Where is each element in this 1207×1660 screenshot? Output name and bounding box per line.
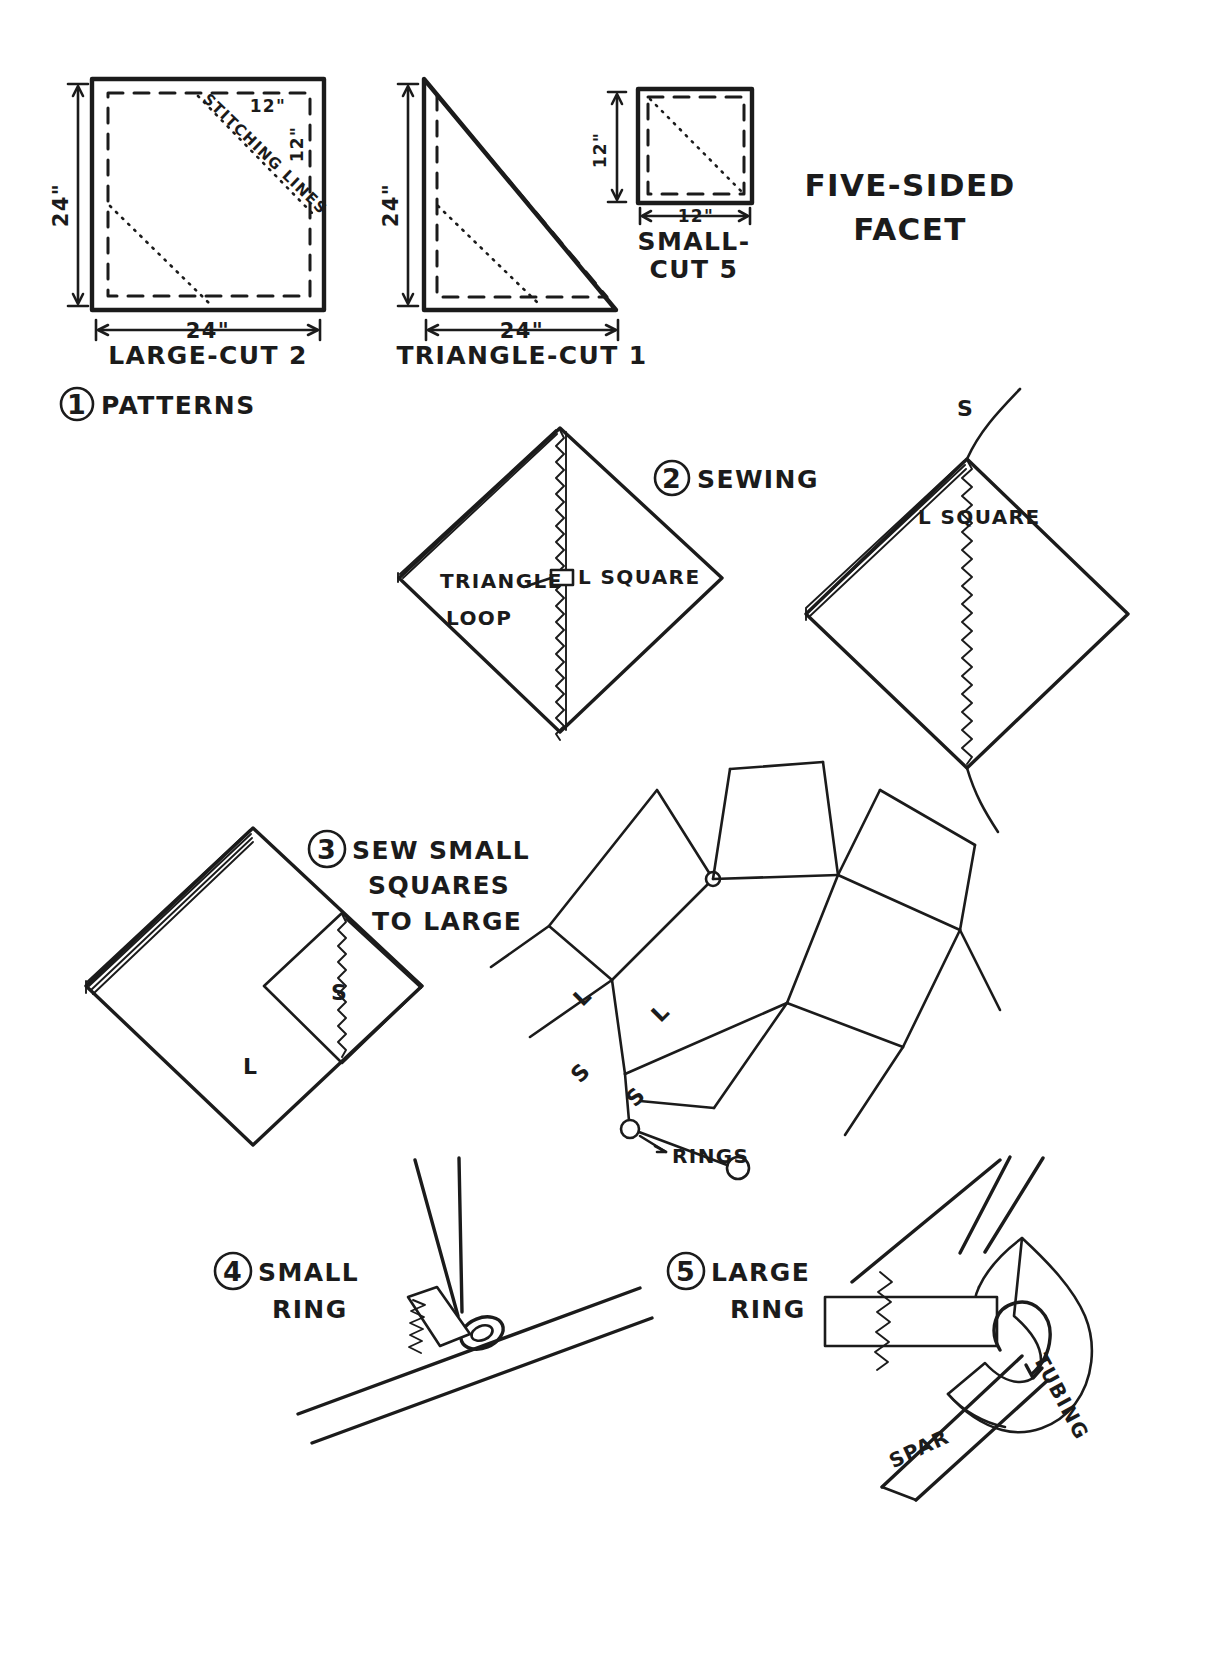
small-height-dimension: 12" [590, 132, 610, 169]
facet-layout: RINGS L L S S [491, 762, 1000, 1179]
sewing-loop-label: LOOP [446, 606, 512, 630]
large-inner-top-dimension: 12" [250, 96, 287, 116]
large-height-dimension: 24" [49, 183, 73, 227]
assembly-small-label: S [331, 980, 348, 1005]
triangle-width-dimension: 24" [500, 319, 544, 343]
step-5-label-line1: LARGE [711, 1258, 810, 1287]
diagram-canvas: 24" 24" 12" 12" STITCHING LINES LARGE-CU… [0, 0, 1207, 1660]
facet-rings-label: RINGS [672, 1144, 749, 1168]
pattern-triangle: 24" 24" TRIANGLE-CUT 1 [379, 79, 648, 370]
step-3-label-line2: SQUARES [368, 871, 510, 900]
sewing-lsquare-label: L SQUARE [578, 565, 700, 589]
pattern-large-square: 24" 24" 12" 12" STITCHING LINES LARGE-CU… [49, 79, 331, 370]
step-4: 4 SMALL RING [215, 1253, 359, 1324]
step-2-number: 2 [662, 463, 682, 494]
page-title-line2: FACET [853, 211, 967, 247]
large-width-dimension: 24" [186, 319, 230, 343]
step-4-label-line1: SMALL [258, 1258, 359, 1287]
facet-label-S-1: S [566, 1058, 596, 1088]
spar-label: SPAR [885, 1424, 953, 1473]
step-3-label-line3: TO LARGE [372, 907, 522, 936]
large-ring-detail: TUBING SPAR [825, 1157, 1094, 1500]
pattern-small-square: 12" 12" SMALL- CUT 5 [590, 89, 752, 284]
step-2: 2 SEWING [655, 461, 819, 495]
pattern-small-caption-line1: SMALL- [638, 227, 751, 256]
small-ring-detail [298, 1158, 652, 1443]
sewing-seam-label: S [957, 396, 974, 421]
step-4-number: 4 [223, 1256, 243, 1287]
step-3-number: 3 [317, 834, 337, 865]
sewing-right-diamond: S L SQUARE [806, 389, 1128, 832]
step-1-label: PATTERNS [101, 391, 256, 420]
step-1: 1 PATTERNS [61, 388, 256, 420]
step-2-label: SEWING [697, 465, 819, 494]
pattern-large-caption: LARGE-CUT 2 [108, 341, 308, 370]
large-inner-right-dimension: 12" [287, 126, 307, 163]
triangle-height-dimension: 24" [379, 183, 403, 227]
pattern-triangle-caption: TRIANGLE-CUT 1 [396, 341, 647, 370]
page-title-line1: FIVE-SIDED [804, 167, 1015, 203]
step-3-label-line1: SEW SMALL [352, 836, 530, 865]
sewing-right-lsquare-label: L SQUARE [918, 505, 1040, 529]
step-5-number: 5 [676, 1256, 696, 1287]
facet-label-L-2: L [646, 998, 675, 1027]
step-1-number: 1 [67, 389, 87, 420]
small-width-dimension: 12" [678, 206, 715, 226]
assembly-large-label: L [243, 1054, 258, 1079]
step-5: 5 LARGE RING [668, 1253, 810, 1324]
page-title: FIVE-SIDED FACET [804, 167, 1015, 247]
sewing-triangle-label: TRIANGLE [440, 569, 563, 593]
step-4-label-line2: RING [272, 1295, 348, 1324]
pattern-small-caption-line2: CUT 5 [650, 255, 739, 284]
drawing-sheet: 24" 24" 12" 12" STITCHING LINES LARGE-CU… [0, 0, 1207, 1660]
step-5-label-line2: RING [730, 1295, 806, 1324]
